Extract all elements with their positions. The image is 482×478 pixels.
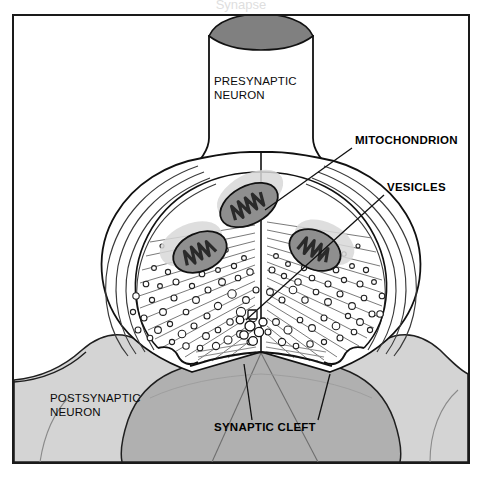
label-postsynaptic-neuron-line1: POSTSYNAPTIC xyxy=(50,392,141,404)
synapse-diagram-figure: Synapse xyxy=(0,0,482,478)
label-postsynaptic-neuron-line2: NEURON xyxy=(50,406,101,418)
label-presynaptic-neuron-line1: PRESYNAPTIC xyxy=(214,75,297,87)
diagram-canvas: Synapse xyxy=(0,0,482,478)
label-vesicles-text: VESICLES xyxy=(387,181,446,193)
label-mitochondrion-text: MITOCHONDRION xyxy=(355,134,458,146)
figure-title-cropped: Synapse xyxy=(216,0,267,12)
label-synaptic-cleft-text: SYNAPTIC CLEFT xyxy=(214,421,316,433)
label-presynaptic-neuron-line2: NEURON xyxy=(214,89,265,101)
